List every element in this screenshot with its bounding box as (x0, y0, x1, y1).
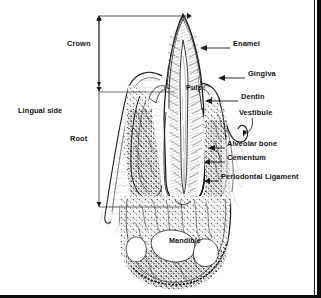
enamel-label: Enamel (233, 40, 260, 47)
marrow-space-left (126, 237, 146, 262)
tooth-anatomy-figure: Lingual side Crown Root Enamel Gingiva D… (0, 0, 321, 298)
periodontal-ligament-label: Periodontal Ligament (221, 173, 299, 180)
gingiva-label: Gingiva (248, 70, 276, 77)
dentin-label: Dentin (241, 93, 265, 100)
pulp-label: Pulp (186, 84, 202, 91)
crown-dimension-label: Crown (67, 40, 91, 47)
cementum-label: Cementum (227, 154, 266, 161)
page-right-border-inner (314, 0, 315, 298)
root-dimension-label: Root (70, 135, 87, 142)
page-right-border (317, 0, 321, 298)
lingual-side-label: Lingual side (18, 107, 62, 114)
alveolar-bone-label: Alveolar bone (227, 140, 277, 147)
mandible-label: Mandible (169, 237, 201, 244)
tooth-diagram-svg (0, 0, 321, 298)
vestibule-label: Vestibule (239, 109, 272, 116)
